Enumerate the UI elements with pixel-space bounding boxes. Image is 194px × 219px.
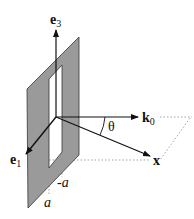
theta-arc <box>100 117 105 135</box>
minus-a-label: -a <box>57 176 69 190</box>
e1-label: e1 <box>10 153 21 169</box>
x-label: x <box>153 154 160 168</box>
theta-label: θ <box>108 120 115 134</box>
k0-label: k0 <box>142 111 155 127</box>
e3-label: e3 <box>50 13 61 29</box>
a-label: a <box>44 196 51 210</box>
screen-plate <box>27 37 79 208</box>
diagram-canvas <box>0 0 194 219</box>
